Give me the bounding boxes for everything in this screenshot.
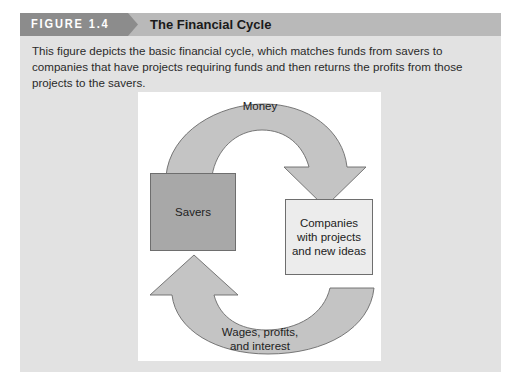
figure-header: FIGURE 1.4 The Financial Cycle	[20, 13, 501, 36]
returns-label-line-2: and interest	[200, 339, 320, 353]
figure-number: FIGURE 1.4	[31, 17, 110, 31]
savers-label: Savers	[175, 205, 211, 219]
figure-container: FIGURE 1.4 The Financial Cycle This figu…	[20, 13, 501, 372]
companies-node: Companies with projects and new ideas	[285, 199, 373, 275]
figure-title: The Financial Cycle	[150, 17, 271, 32]
companies-label-line-2: with projects	[292, 230, 366, 244]
diagram-panel: Money Savers Companies with projects and…	[138, 92, 381, 361]
savers-node: Savers	[150, 173, 236, 251]
companies-label-line-3: and new ideas	[292, 244, 366, 258]
returns-label-line-1: Wages, profits,	[200, 325, 320, 339]
companies-label-line-1: Companies	[292, 216, 366, 230]
money-label: Money	[220, 99, 300, 113]
returns-label: Wages, profits, and interest	[200, 325, 320, 353]
figure-caption: This figure depicts the basic financial …	[32, 43, 497, 91]
